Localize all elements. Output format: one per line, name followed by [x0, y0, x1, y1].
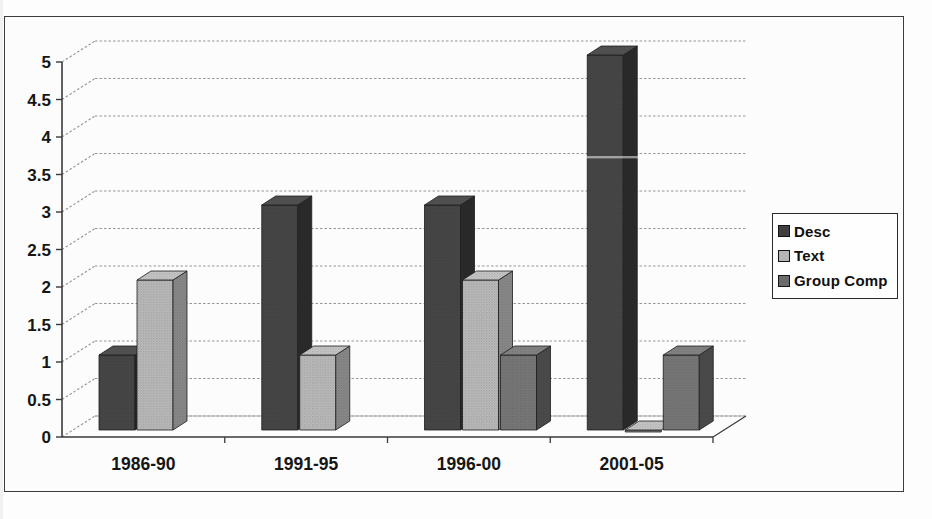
- legend-label-group-comp: Group Comp: [794, 273, 888, 288]
- y-tick-label: 0: [42, 428, 51, 447]
- y-tick-label: 5: [42, 53, 51, 72]
- x-category-label: 1991-95: [274, 454, 338, 474]
- x-category-label: 1996-00: [437, 454, 501, 474]
- legend-label-text: Text: [794, 248, 825, 263]
- legend: Desc Text Group Comp: [772, 213, 898, 299]
- legend-swatch-group-comp-icon: [778, 275, 790, 287]
- x-category-label: 1986-90: [111, 454, 175, 474]
- scanned-3d-bar-chart-page: 00.511.522.533.544.551986-901991-951996-…: [0, 0, 932, 519]
- legend-swatch-text-icon: [778, 250, 790, 262]
- x-category-label: 2001-05: [600, 454, 664, 474]
- legend-item-group-comp: Group Comp: [778, 273, 892, 288]
- legend-swatch-desc-icon: [778, 225, 790, 237]
- y-tick-label: 1: [42, 353, 51, 372]
- y-tick-label: 2.5: [27, 241, 51, 260]
- y-tick-label: 3.5: [27, 166, 51, 185]
- y-tick-label: 2: [42, 278, 51, 297]
- y-tick-label: 3: [42, 203, 51, 222]
- legend-item-text: Text: [778, 248, 892, 263]
- y-tick-label: 0.5: [27, 391, 51, 410]
- y-tick-label: 4: [42, 128, 52, 147]
- y-tick-label: 1.5: [27, 316, 51, 335]
- y-tick-label: 4.5: [27, 91, 51, 110]
- legend-item-desc: Desc: [778, 224, 892, 239]
- legend-label-desc: Desc: [794, 224, 831, 239]
